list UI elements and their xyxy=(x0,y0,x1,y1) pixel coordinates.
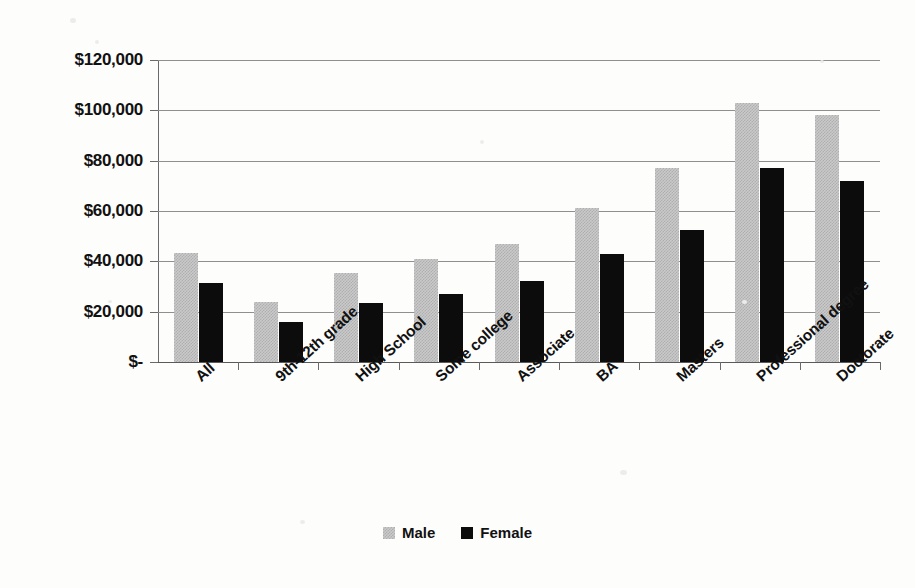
bar-chart: $120,000$100,000$80,000$60,000$40,000$20… xyxy=(0,0,915,588)
bar-group xyxy=(254,60,303,362)
x-axis-tick xyxy=(238,362,239,370)
bar-group xyxy=(655,60,704,362)
legend-label: Male xyxy=(402,524,435,541)
bar-female xyxy=(680,230,704,362)
bar-male xyxy=(414,259,438,362)
x-axis-tick xyxy=(800,362,801,370)
legend-item: Female xyxy=(461,524,532,541)
male-swatch xyxy=(383,527,395,539)
x-axis-tick xyxy=(399,362,400,370)
bar-female xyxy=(840,181,864,362)
legend-item: Male xyxy=(383,524,435,541)
bar-male xyxy=(655,168,679,362)
chart-legend: MaleFemale xyxy=(0,524,915,541)
y-axis-label: $60,000 xyxy=(0,201,143,221)
bar-group xyxy=(735,60,784,362)
bar-group xyxy=(575,60,624,362)
plot-area xyxy=(158,60,880,362)
bar-male xyxy=(254,302,278,362)
female-swatch xyxy=(461,527,473,539)
y-axis-label: $- xyxy=(0,352,143,372)
x-axis-tick xyxy=(559,362,560,370)
scan-artifact xyxy=(70,18,76,23)
y-axis-label: $40,000 xyxy=(0,251,143,271)
bar-male xyxy=(735,103,759,362)
scan-artifact xyxy=(95,40,99,44)
legend-label: Female xyxy=(480,524,532,541)
x-axis-label: All xyxy=(192,359,218,385)
y-axis-label: $80,000 xyxy=(0,151,143,171)
x-axis-tick xyxy=(880,362,881,370)
bar-female xyxy=(199,283,223,362)
scan-artifact xyxy=(620,470,627,475)
bar-female xyxy=(600,254,624,362)
bar-group xyxy=(174,60,223,362)
x-axis-tick xyxy=(318,362,319,370)
y-axis-label: $120,000 xyxy=(0,50,143,70)
bar-female xyxy=(760,168,784,362)
bar-male xyxy=(495,244,519,362)
bar-male xyxy=(575,208,599,362)
x-axis-tick xyxy=(720,362,721,370)
x-axis-tick xyxy=(639,362,640,370)
x-axis-tick xyxy=(479,362,480,370)
y-axis-label: $100,000 xyxy=(0,100,143,120)
bar-male xyxy=(174,253,198,362)
y-axis-label: $20,000 xyxy=(0,302,143,322)
